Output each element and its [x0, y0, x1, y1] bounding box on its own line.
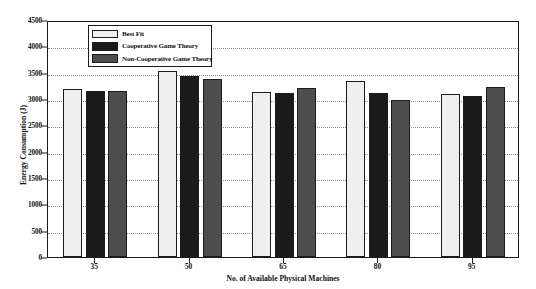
- legend-label-cooperative-game-theory: Cooperative Game Theory: [122, 42, 198, 50]
- y-tick-label: 1000: [2, 201, 42, 209]
- y-tick-label: 0: [2, 254, 42, 262]
- bar: [486, 87, 505, 257]
- bar: [158, 71, 177, 257]
- x-tick-label: 95: [452, 262, 492, 271]
- y-tick-label: 2500: [2, 122, 42, 130]
- legend-swatch-best-fit: [92, 30, 118, 39]
- bar: [203, 79, 222, 257]
- bar: [369, 93, 388, 257]
- bar: [86, 91, 105, 257]
- bar: [441, 94, 460, 257]
- legend-swatch-cooperative-game-theory: [92, 42, 118, 51]
- y-tick-label: 500: [2, 228, 42, 236]
- y-tick-label: 3000: [2, 96, 42, 104]
- legend-label-non-cooperative-game-theory: Non-Cooperative Game Theory: [122, 55, 212, 63]
- bar: [63, 89, 82, 257]
- bar: [391, 100, 410, 257]
- legend-item-non-cooperative-game-theory: Non-Cooperative Game Theory: [92, 53, 208, 65]
- bar: [275, 93, 294, 257]
- bar: [346, 81, 365, 257]
- y-tick-label: 4000: [2, 43, 42, 51]
- x-tick-label: 65: [263, 262, 303, 271]
- energy-consumption-bar-chart: Energy Consumption (J) 05001000150020002…: [0, 0, 536, 289]
- y-tick-label: 2000: [2, 149, 42, 157]
- bar: [108, 91, 127, 257]
- legend-swatch-non-cooperative-game-theory: [92, 54, 118, 63]
- y-tick-label: 1500: [2, 175, 42, 183]
- legend-item-best-fit: Best Fit: [92, 28, 208, 40]
- chart-legend: Best Fit Cooperative Game Theory Non-Coo…: [88, 25, 212, 67]
- x-tick-label: 80: [357, 262, 397, 271]
- bar: [180, 76, 199, 257]
- y-tick-label: 4500: [2, 17, 42, 25]
- x-tick-label: 50: [169, 262, 209, 271]
- gridline: [48, 75, 518, 76]
- legend-item-cooperative-game-theory: Cooperative Game Theory: [92, 40, 208, 52]
- x-tick-label: 35: [74, 262, 114, 271]
- y-tick-label: 3500: [2, 70, 42, 78]
- bar: [463, 96, 482, 257]
- legend-label-best-fit: Best Fit: [122, 30, 144, 38]
- x-axis-title: No. of Available Physical Machines: [47, 274, 519, 283]
- bar: [297, 88, 316, 257]
- bar: [252, 92, 271, 257]
